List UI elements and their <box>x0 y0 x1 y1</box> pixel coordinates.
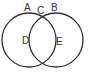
venn-circles <box>0 0 96 74</box>
label-e: E <box>56 37 63 47</box>
label-d: D <box>22 36 29 46</box>
label-c: C <box>37 6 44 16</box>
label-b: B <box>51 3 58 13</box>
venn-diagram: A C B D E <box>0 0 96 74</box>
label-a: A <box>24 3 31 13</box>
